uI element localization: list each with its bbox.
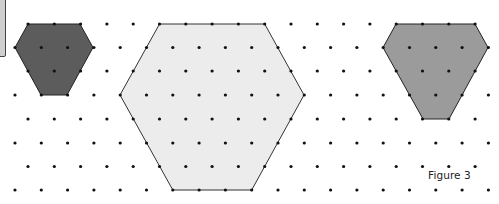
lattice-dot — [26, 165, 29, 168]
lattice-dot — [461, 46, 464, 49]
lattice-dot — [105, 117, 108, 120]
lattice-dot — [171, 93, 174, 96]
lattice-dot — [408, 93, 411, 96]
lattice-dot — [79, 117, 82, 120]
lattice-dot — [224, 93, 227, 96]
lattice-dot — [79, 69, 82, 72]
lattice-dot — [408, 141, 411, 144]
lattice-dot — [303, 188, 306, 191]
lattice-dot — [53, 165, 56, 168]
lattice-dot — [474, 22, 477, 25]
lattice-dot — [355, 141, 358, 144]
lattice-dot — [171, 141, 174, 144]
lattice-dot — [395, 165, 398, 168]
lattice-dot — [276, 93, 279, 96]
lattice-dot — [211, 22, 214, 25]
lattice-dot — [263, 165, 266, 168]
lattice-dot — [303, 141, 306, 144]
lattice-dot — [263, 69, 266, 72]
lattice-dot — [316, 22, 319, 25]
lattice-dot — [158, 165, 161, 168]
lattice-dot — [158, 69, 161, 72]
lattice-dot — [145, 188, 148, 191]
lattice-dot — [105, 22, 108, 25]
lattice-dot — [276, 46, 279, 49]
lattice-dot — [421, 117, 424, 120]
lattice-dot — [395, 117, 398, 120]
lattice-dot — [211, 69, 214, 72]
lattice-dot — [474, 117, 477, 120]
lattice-dot — [224, 46, 227, 49]
lattice-dot — [289, 117, 292, 120]
lattice-dot — [40, 141, 43, 144]
lattice-dot — [198, 188, 201, 191]
lattice-dot — [132, 22, 135, 25]
lattice-dot — [119, 46, 122, 49]
lattice-dot — [421, 69, 424, 72]
lattice-dot — [132, 117, 135, 120]
lattice-dot — [382, 93, 385, 96]
lattice-dot — [289, 165, 292, 168]
lattice-dot — [53, 117, 56, 120]
lattice-dot — [184, 22, 187, 25]
lattice-dot — [105, 165, 108, 168]
lattice-dot — [105, 69, 108, 72]
lattice-dot — [289, 69, 292, 72]
lattice-dot — [132, 165, 135, 168]
lattice-dot — [355, 46, 358, 49]
lattice-dot — [145, 141, 148, 144]
lattice-dot — [329, 46, 332, 49]
lattice-dot — [26, 22, 29, 25]
lattice-dot — [92, 93, 95, 96]
lattice-dot — [434, 46, 437, 49]
lattice-dot — [53, 22, 56, 25]
lattice-dot — [119, 93, 122, 96]
lattice-dot — [224, 188, 227, 191]
lattice-dot — [66, 93, 69, 96]
lattice-dot — [40, 46, 43, 49]
lattice-dot — [447, 117, 450, 120]
lattice-dot — [171, 46, 174, 49]
lattice-dot — [79, 22, 82, 25]
lattice-dot — [237, 22, 240, 25]
lattice-dot — [13, 141, 16, 144]
lattice-dot — [237, 117, 240, 120]
lattice-dot — [53, 69, 56, 72]
lattice-dot — [474, 69, 477, 72]
lattice-dot — [461, 188, 464, 191]
dot-lattice-diagram — [0, 0, 499, 204]
lattice-dot — [303, 46, 306, 49]
lattice-dot — [316, 117, 319, 120]
lattice-dot — [368, 22, 371, 25]
lattice-dot — [13, 93, 16, 96]
lattice-dot — [13, 188, 16, 191]
lattice-dot — [145, 93, 148, 96]
lattice-dot — [316, 165, 319, 168]
lattice-dot — [421, 22, 424, 25]
lattice-dot — [224, 141, 227, 144]
lattice-dot — [198, 46, 201, 49]
lattice-dot — [474, 165, 477, 168]
lattice-dot — [276, 141, 279, 144]
lattice-dot — [434, 93, 437, 96]
lattice-dot — [66, 46, 69, 49]
lattice-dot — [434, 141, 437, 144]
lattice-dot — [487, 188, 490, 191]
lattice-dot — [487, 46, 490, 49]
lattice-dot — [250, 93, 253, 96]
lattice-dot — [382, 46, 385, 49]
lattice-dot — [303, 93, 306, 96]
lattice-dot — [461, 141, 464, 144]
lattice-dot — [79, 165, 82, 168]
lattice-dot — [276, 188, 279, 191]
lattice-dot — [119, 188, 122, 191]
lattice-dot — [434, 188, 437, 191]
lattice-dot — [66, 188, 69, 191]
lattice-dot — [13, 46, 16, 49]
lattice-dot — [26, 117, 29, 120]
lattice-dot — [237, 69, 240, 72]
lattice-dot — [171, 188, 174, 191]
lattice-dot — [250, 46, 253, 49]
lattice-dot — [66, 141, 69, 144]
lattice-dot — [184, 165, 187, 168]
